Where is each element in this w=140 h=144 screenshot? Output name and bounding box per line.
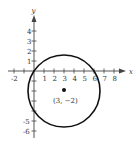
y-axis-label: y xyxy=(31,7,37,15)
x-tick-label: 5 xyxy=(83,75,87,83)
x-tick-label: 1 xyxy=(43,75,47,83)
x-tick-label: 8 xyxy=(113,75,117,83)
center-point xyxy=(62,88,66,92)
y-tick-label: -6 xyxy=(23,128,30,136)
y-tick-label: 3 xyxy=(27,38,31,46)
x-axis-label: x xyxy=(129,68,133,76)
x-tick-label: 2 xyxy=(53,75,57,83)
x-tick-label: 4 xyxy=(73,75,78,83)
x-axis-arrow-icon xyxy=(119,69,126,74)
y-tick-label: -5 xyxy=(23,118,30,126)
x-tick-label: -2 xyxy=(11,75,18,83)
x-tick-label: 7 xyxy=(103,75,107,83)
y-tick-label: 1 xyxy=(27,58,31,66)
x-tick-label: 3 xyxy=(63,75,67,83)
y-axis-arrow-icon xyxy=(32,15,37,22)
y-tick-label: 2 xyxy=(27,48,31,56)
y-tick-label: 4 xyxy=(27,28,32,36)
circle-diagram: -2 1 2 3 4 5 6 7 8 4 3 2 1 -5 -6 x y (3,… xyxy=(0,0,140,144)
center-point-label: (3, −2) xyxy=(53,97,78,105)
